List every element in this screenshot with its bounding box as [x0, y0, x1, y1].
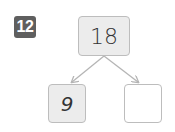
whole-value: 18 — [90, 24, 118, 49]
arrow-right — [104, 56, 138, 82]
part-value-left: 9 — [61, 92, 74, 116]
part-box-left: 9 — [48, 84, 86, 123]
part-box-right-answer[interactable] — [124, 84, 162, 123]
whole-box: 18 — [78, 16, 130, 56]
arrow-left — [72, 56, 104, 82]
